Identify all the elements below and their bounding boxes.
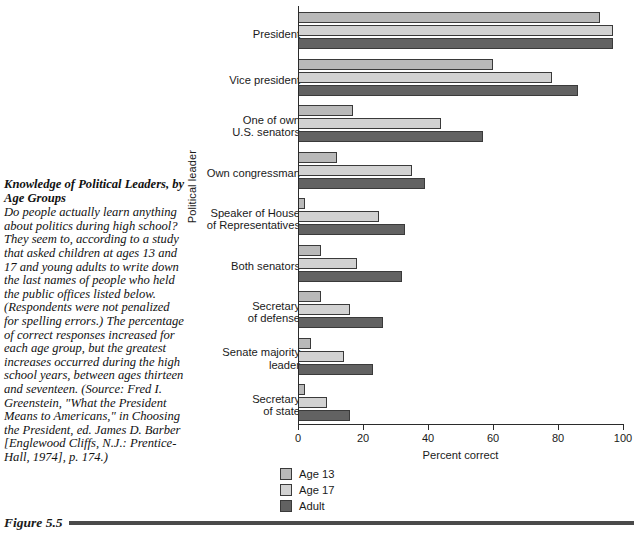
bar-group <box>298 338 623 381</box>
x-axis-tick <box>428 424 429 430</box>
legend-label: Adult <box>299 500 325 512</box>
x-axis-tick-label: 60 <box>487 432 499 444</box>
x-axis-title: Percent correct <box>298 449 623 461</box>
category-row: Own congressman <box>204 150 632 197</box>
category-label: Speaker of House of Representatives <box>170 207 300 232</box>
x-axis-tick <box>493 424 494 430</box>
x-axis-tick <box>298 424 299 430</box>
category-row: Secretary of state <box>204 382 632 429</box>
figure-caption-title: Knowledge of Political Leaders, by Age G… <box>4 178 186 205</box>
bar-age-17 <box>298 165 412 176</box>
bar-age-13 <box>298 105 353 116</box>
bar-age-13 <box>298 152 337 163</box>
bar-group <box>298 105 623 148</box>
legend-item: Age 13 <box>280 466 334 482</box>
bar-group <box>298 245 623 288</box>
bar-age-13 <box>298 59 493 70</box>
x-axis-tick <box>558 424 559 430</box>
category-row: President <box>204 10 632 57</box>
bar-group <box>298 12 623 55</box>
bar-age-17 <box>298 397 327 408</box>
x-axis-tick <box>363 424 364 430</box>
category-row: Speaker of House of Representatives <box>204 196 632 243</box>
bar-adult <box>298 410 350 421</box>
bar-adult <box>298 38 613 49</box>
category-label: Own congressman <box>170 167 300 180</box>
bar-group <box>298 291 623 334</box>
category-row: Secretary of defense <box>204 289 632 336</box>
legend-item: Age 17 <box>280 482 334 498</box>
legend-label: Age 13 <box>299 468 334 480</box>
y-axis-line <box>298 6 299 425</box>
legend-swatch-icon <box>280 500 292 512</box>
category-row: Senate majority leader <box>204 336 632 383</box>
bar-age-13 <box>298 291 321 302</box>
figure-caption-body: Do people actually learn anything about … <box>4 206 186 464</box>
x-axis-tick-label: 0 <box>295 432 301 444</box>
bar-age-13 <box>298 338 311 349</box>
bar-age-13 <box>298 12 600 23</box>
category-label: President <box>170 27 300 40</box>
x-axis-tick-label: 40 <box>422 432 434 444</box>
x-axis-tick-label: 100 <box>614 432 632 444</box>
bar-adult <box>298 271 402 282</box>
bar-age-17 <box>298 211 379 222</box>
bar-age-17 <box>298 351 344 362</box>
category-label: Both senators <box>170 260 300 273</box>
bar-age-13 <box>298 245 321 256</box>
legend-label: Age 17 <box>299 484 334 496</box>
x-axis-tick-label: 80 <box>552 432 564 444</box>
legend-swatch-icon <box>280 484 292 496</box>
category-label: Vice president <box>170 74 300 87</box>
bar-group <box>298 152 623 195</box>
category-row: One of own U.S. senators <box>204 103 632 150</box>
bar-age-17 <box>298 304 350 315</box>
bar-adult <box>298 224 405 235</box>
legend-item: Adult <box>280 498 334 514</box>
bar-adult <box>298 364 373 375</box>
plot-area: PresidentVice presidentOne of own U.S. s… <box>204 4 632 424</box>
bar-adult <box>298 178 425 189</box>
category-label: One of own U.S. senators <box>170 114 300 139</box>
bar-age-17 <box>298 25 613 36</box>
bar-adult <box>298 131 483 142</box>
x-axis-tick <box>623 424 624 430</box>
figure-number: Figure 5.5 <box>4 515 63 531</box>
bar-age-17 <box>298 258 357 269</box>
x-axis-line <box>298 424 623 425</box>
bar-adult <box>298 317 383 328</box>
category-label: Senate majority leader <box>170 346 300 371</box>
x-axis-tick-label: 20 <box>357 432 369 444</box>
figure-caption-block: Knowledge of Political Leaders, by Age G… <box>4 178 186 464</box>
bar-group <box>298 59 623 102</box>
bar-chart: Political leader PresidentVice president… <box>186 0 637 540</box>
bar-adult <box>298 85 578 96</box>
bar-age-17 <box>298 118 441 129</box>
category-label: Secretary of state <box>170 393 300 418</box>
bar-group <box>298 198 623 241</box>
category-row: Both senators <box>204 243 632 290</box>
legend-swatch-icon <box>280 468 292 480</box>
chart-legend: Age 13Age 17Adult <box>280 466 334 514</box>
category-label: Secretary of defense <box>170 300 300 325</box>
bar-age-17 <box>298 72 552 83</box>
bar-group <box>298 384 623 427</box>
category-row: Vice president <box>204 57 632 104</box>
